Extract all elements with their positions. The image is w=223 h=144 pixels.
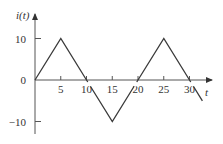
x-tick-label: 25 [158, 83, 170, 95]
x-axis-ticks: 51015202530 [58, 76, 196, 95]
y-axis-title: i(t) [16, 9, 30, 22]
x-tick-label: 5 [58, 83, 64, 95]
x-axis-title: t [205, 86, 209, 98]
x-tick-label: 15 [107, 83, 119, 95]
y-tick-label: 0 [21, 74, 27, 86]
triangular-waveform-chart: 51015202530 100−10 i(t) t [0, 0, 223, 144]
y-tick-label: −10 [9, 116, 27, 128]
y-tick-label: 10 [15, 33, 27, 45]
